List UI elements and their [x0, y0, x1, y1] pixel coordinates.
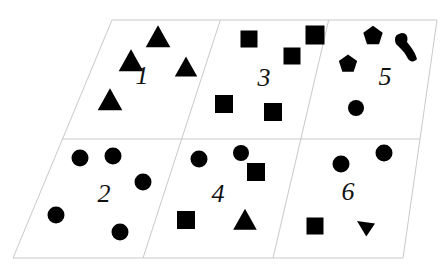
shape-triangle	[175, 56, 197, 76]
shape-square	[247, 163, 265, 181]
shape-triangle-down	[357, 221, 375, 236]
grid-cell-4: 4	[177, 145, 265, 230]
shape-circle	[112, 224, 129, 241]
shape-blob	[395, 33, 417, 61]
cell-label-3: 3	[257, 63, 271, 92]
shape-circle	[105, 148, 122, 165]
shape-square	[264, 103, 282, 121]
shape-square	[241, 31, 258, 48]
shape-pentagon	[363, 26, 382, 44]
cell-label-6: 6	[342, 177, 355, 206]
grid-cell-6: 6	[307, 145, 393, 237]
shape-circle	[135, 174, 152, 191]
shape-triangle	[98, 88, 123, 110]
grid-lines	[13, 20, 437, 258]
grid-cell-2: 2	[48, 148, 152, 241]
grid-cell-5: 5	[339, 26, 417, 116]
shape-circle	[48, 207, 65, 224]
cell-label-2: 2	[98, 179, 111, 208]
shape-circle	[348, 100, 364, 116]
shape-square	[307, 218, 324, 235]
cell-label-5: 5	[379, 62, 392, 91]
grid-cell-1: 1	[98, 25, 198, 110]
shape-grid-figure: 135246	[0, 0, 445, 273]
shape-circle	[333, 156, 350, 173]
shape-circle	[72, 150, 89, 167]
cell-label-1: 1	[136, 61, 149, 90]
shape-triangle	[146, 25, 171, 47]
shape-grid-canvas: 135246	[0, 0, 445, 273]
shape-circle	[376, 145, 393, 162]
shape-square	[215, 95, 233, 113]
cell-label-4: 4	[212, 179, 225, 208]
shape-pentagon	[339, 54, 357, 71]
shape-square	[306, 26, 325, 45]
shape-triangle	[233, 209, 257, 230]
shape-circle	[233, 145, 249, 161]
shape-square	[177, 211, 195, 229]
shape-circle	[191, 151, 208, 168]
cells-layer: 135246	[48, 25, 418, 240]
shape-square	[284, 48, 301, 65]
